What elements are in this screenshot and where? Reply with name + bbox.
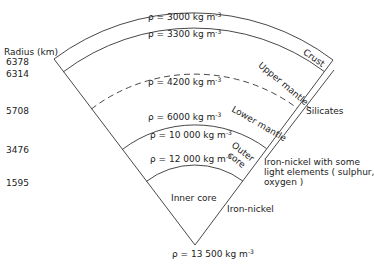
composition-outer-core-line1: Iron-nickel with some: [264, 157, 360, 167]
density-label: ρ = 6000 kg m-3: [148, 112, 221, 122]
density-label: ρ = 3000 kg m-3: [148, 12, 221, 22]
inner-core-boundary-arc: [147, 165, 243, 181]
density-label: ρ = 3300 kg m-3: [148, 29, 221, 39]
radius-tick: 1595: [6, 178, 29, 188]
radius-tick: 3476: [6, 145, 29, 155]
radius-tick: 6378: [6, 57, 29, 67]
wedge-right-edge: [195, 60, 333, 245]
density-label: ρ = 12 000 kg m-3: [150, 154, 232, 164]
density-label: ρ = 13 500 kg m-3: [172, 249, 254, 259]
radius-axis-title: Radius (km): [4, 47, 58, 57]
density-label: ρ = 10 000 kg m-3: [150, 130, 232, 140]
layer-label-inner-core: Inner core: [171, 193, 217, 203]
density-label: ρ = 4200 kg m-3: [148, 77, 221, 87]
composition-silicates: Silicates: [306, 106, 343, 116]
composition-outer-core-line3: oxygen ): [264, 177, 303, 187]
radius-tick: 5708: [6, 106, 29, 116]
composition-inner-core: Iron-nickel: [227, 204, 274, 214]
silicates-bracket: [284, 70, 334, 135]
radius-tick: 6314: [6, 69, 29, 79]
composition-outer-core-line2: light elements ( sulphur,: [264, 167, 374, 177]
